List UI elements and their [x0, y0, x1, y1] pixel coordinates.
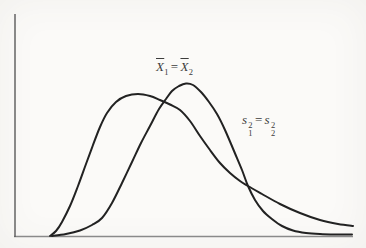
xbar1-symbol: X [156, 59, 164, 74]
right-skewed-curve [50, 94, 353, 236]
s1-subscript: 1 [248, 130, 253, 138]
xbar2-subscript: 2 [189, 67, 194, 77]
s2-symbol: s [265, 112, 270, 127]
s1-symbol: s [242, 112, 247, 127]
s2-scripts: 22 [271, 122, 276, 137]
distribution-comparison-figure: X1=X2 s21=s22 [0, 0, 366, 248]
xbar2-symbol: X [180, 59, 188, 74]
s2-subscript: 2 [271, 130, 276, 138]
variances-equals-sign: = [253, 112, 265, 127]
variances-equal-label: s21=s22 [242, 112, 275, 137]
left-skewed-curve [52, 83, 352, 236]
figure-svg [0, 0, 366, 248]
means-equal-label: X1=X2 [156, 59, 193, 77]
means-equals-sign: = [169, 59, 181, 74]
